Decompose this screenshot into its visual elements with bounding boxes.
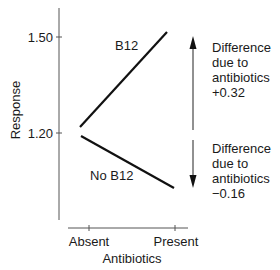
annotation-down-line: antibiotics xyxy=(212,171,270,186)
annotation-up-line: Difference xyxy=(212,40,271,55)
annotation-up: Difference due to antibiotics +0.32 xyxy=(212,40,275,100)
annotation-down-line: due to xyxy=(212,156,248,171)
annotation-up-line: due to xyxy=(212,55,248,70)
annotation-down-value: −0.16 xyxy=(212,186,245,201)
series-label-b12: B12 xyxy=(115,38,138,53)
arrow-down-icon xyxy=(190,175,197,188)
series-label-no-b12: No B12 xyxy=(90,168,133,183)
annotation-up-value: +0.32 xyxy=(212,85,245,100)
x-tick-label-present: Present xyxy=(154,234,199,249)
y-tick-label-120: 1.20 xyxy=(28,126,53,141)
y-axis-label: Response xyxy=(8,81,23,140)
annotation-down-line: Difference xyxy=(212,141,271,156)
x-tick-label-absent: Absent xyxy=(69,234,110,249)
y-tick-label-150: 1.50 xyxy=(28,30,53,45)
chart: 1.50 1.20 Response Absent Present Antibi… xyxy=(0,0,280,270)
annotation-up-line: antibiotics xyxy=(212,70,270,85)
arrow-up-icon xyxy=(190,36,197,49)
x-axis-label: Antibiotics xyxy=(102,251,162,266)
annotation-down: Difference due to antibiotics −0.16 xyxy=(212,141,275,201)
